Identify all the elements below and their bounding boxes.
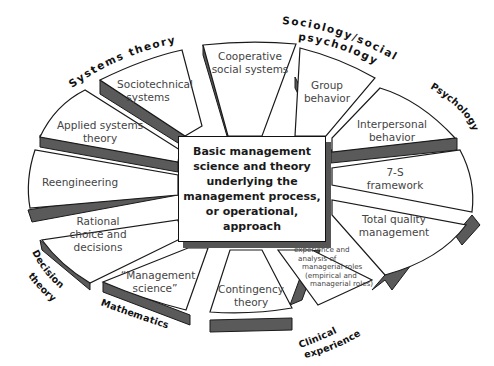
svg-text:Reengineering: Reengineering: [42, 176, 118, 188]
svg-text:Total qualitymanagement: Total qualitymanagement: [359, 213, 429, 238]
center-concept-label: Basic management science and theory unde…: [183, 144, 320, 234]
diagram-stage: Sociotechnicalsystems Cooperativesocial …: [0, 0, 494, 366]
sociotechnical-label-1: Sociotechnical: [117, 78, 193, 90]
center-concept-box: Basic management science and theory unde…: [178, 136, 326, 242]
svg-text:Cooperativesocial systems: Cooperativesocial systems: [212, 50, 289, 75]
svg-text:Rationalchoice anddecisions: Rationalchoice anddecisions: [69, 215, 126, 253]
